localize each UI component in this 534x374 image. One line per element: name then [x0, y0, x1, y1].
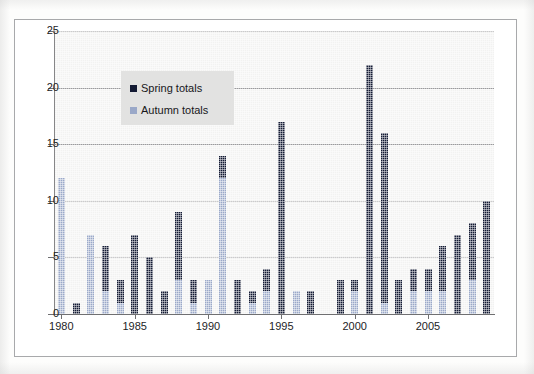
bar-segment-spring: [219, 156, 226, 179]
bar-segment-spring: [131, 235, 138, 314]
x-axis-tick-label: 1985: [113, 320, 157, 332]
x-axis-tick-label: 2000: [333, 320, 377, 332]
bar-segment-spring: [337, 280, 344, 314]
bar-1997: [307, 31, 314, 314]
legend-item-autumn-totals: Autumn totals: [130, 103, 208, 117]
bar-2004: [410, 31, 417, 314]
y-axis-tick-label: 25: [29, 25, 59, 36]
bar-1992: [234, 31, 241, 314]
x-axis-tick: [135, 315, 136, 319]
bar-1996: [293, 31, 300, 314]
bar-segment-autumn: [469, 280, 476, 314]
y-axis-tick-label: 15: [29, 138, 59, 149]
bar-1999: [337, 31, 344, 314]
bar-segment-spring: [469, 223, 476, 280]
bar-segment-spring: [395, 280, 402, 314]
bar-segment-spring: [381, 133, 388, 303]
bar-2005: [425, 31, 432, 314]
bar-segment-spring: [307, 291, 314, 314]
bar-1995: [278, 31, 285, 314]
bar-segment-autumn: [117, 303, 124, 314]
y-axis-tick-label: 0: [29, 308, 59, 319]
bar-segment-spring: [73, 303, 80, 314]
bar-1998: [322, 31, 329, 314]
bar-segment-spring: [146, 257, 153, 314]
bar-segment-autumn: [219, 178, 226, 314]
bar-segment-spring: [439, 246, 446, 291]
bar-segment-spring: [175, 212, 182, 280]
bar-segment-autumn: [190, 303, 197, 314]
bar-2009: [483, 31, 490, 314]
plot-area: [54, 31, 494, 314]
bar-2008: [469, 31, 476, 314]
bar-2001: [366, 31, 373, 314]
bar-segment-spring: [454, 235, 461, 314]
bar-2000: [351, 31, 358, 314]
x-axis-tick-label: 1990: [186, 320, 230, 332]
bar-2002: [381, 31, 388, 314]
x-axis-tick: [281, 315, 282, 319]
bar-segment-autumn: [175, 280, 182, 314]
x-axis-tick: [61, 315, 62, 319]
chart-legend: Spring totals Autumn totals: [121, 71, 234, 125]
bar-segment-spring: [366, 65, 373, 314]
bar-1982: [87, 31, 94, 314]
bar-segment-spring: [483, 201, 490, 314]
bar-2003: [395, 31, 402, 314]
bar-1994: [263, 31, 270, 314]
x-axis-tick-label: 2005: [406, 320, 450, 332]
legend-label-spring: Spring totals: [141, 82, 202, 94]
y-axis-tick-label: 5: [29, 251, 59, 262]
x-axis-tick-label: 1995: [259, 320, 303, 332]
legend-swatch-autumn: [130, 107, 137, 114]
bar-segment-spring: [425, 269, 432, 292]
bar-segment-autumn: [102, 291, 109, 314]
bar-segment-autumn: [263, 291, 270, 314]
bar-1983: [102, 31, 109, 314]
bar-1993: [249, 31, 256, 314]
bar-segment-autumn: [410, 291, 417, 314]
bar-segment-spring: [190, 280, 197, 303]
bar-segment-autumn: [205, 280, 212, 314]
legend-label-autumn: Autumn totals: [141, 104, 208, 116]
x-axis-tick-label: 1980: [39, 320, 83, 332]
bar-segment-spring: [263, 269, 270, 292]
bar-1981: [73, 31, 80, 314]
y-axis-tick-label: 20: [29, 82, 59, 93]
x-axis-tick: [428, 315, 429, 319]
bar-segment-autumn: [381, 303, 388, 314]
bar-segment-spring: [161, 291, 168, 314]
bar-chart: 0510152025 198019851990199520002005 Spri…: [14, 19, 517, 357]
bar-segment-spring: [410, 269, 417, 292]
bar-segment-spring: [351, 280, 358, 291]
bar-segment-autumn: [87, 235, 94, 314]
bar-segment-spring: [117, 280, 124, 303]
bar-segment-autumn: [293, 291, 300, 314]
x-axis-tick: [355, 315, 356, 319]
bar-segment-spring: [249, 291, 256, 302]
bar-segment-spring: [234, 280, 241, 314]
y-axis-tick-label: 10: [29, 195, 59, 206]
bar-2007: [454, 31, 461, 314]
bar-segment-autumn: [249, 303, 256, 314]
bar-2006: [439, 31, 446, 314]
bar-segment-autumn: [351, 291, 358, 314]
bar-segment-autumn: [439, 291, 446, 314]
bar-segment-spring: [278, 122, 285, 314]
bar-segment-autumn: [425, 291, 432, 314]
legend-swatch-spring: [130, 85, 137, 92]
y-axis-line: [54, 31, 55, 315]
bar-segment-spring: [102, 246, 109, 291]
x-axis-tick: [208, 315, 209, 319]
legend-item-spring-totals: Spring totals: [130, 81, 202, 95]
bar-1980: [58, 31, 65, 314]
